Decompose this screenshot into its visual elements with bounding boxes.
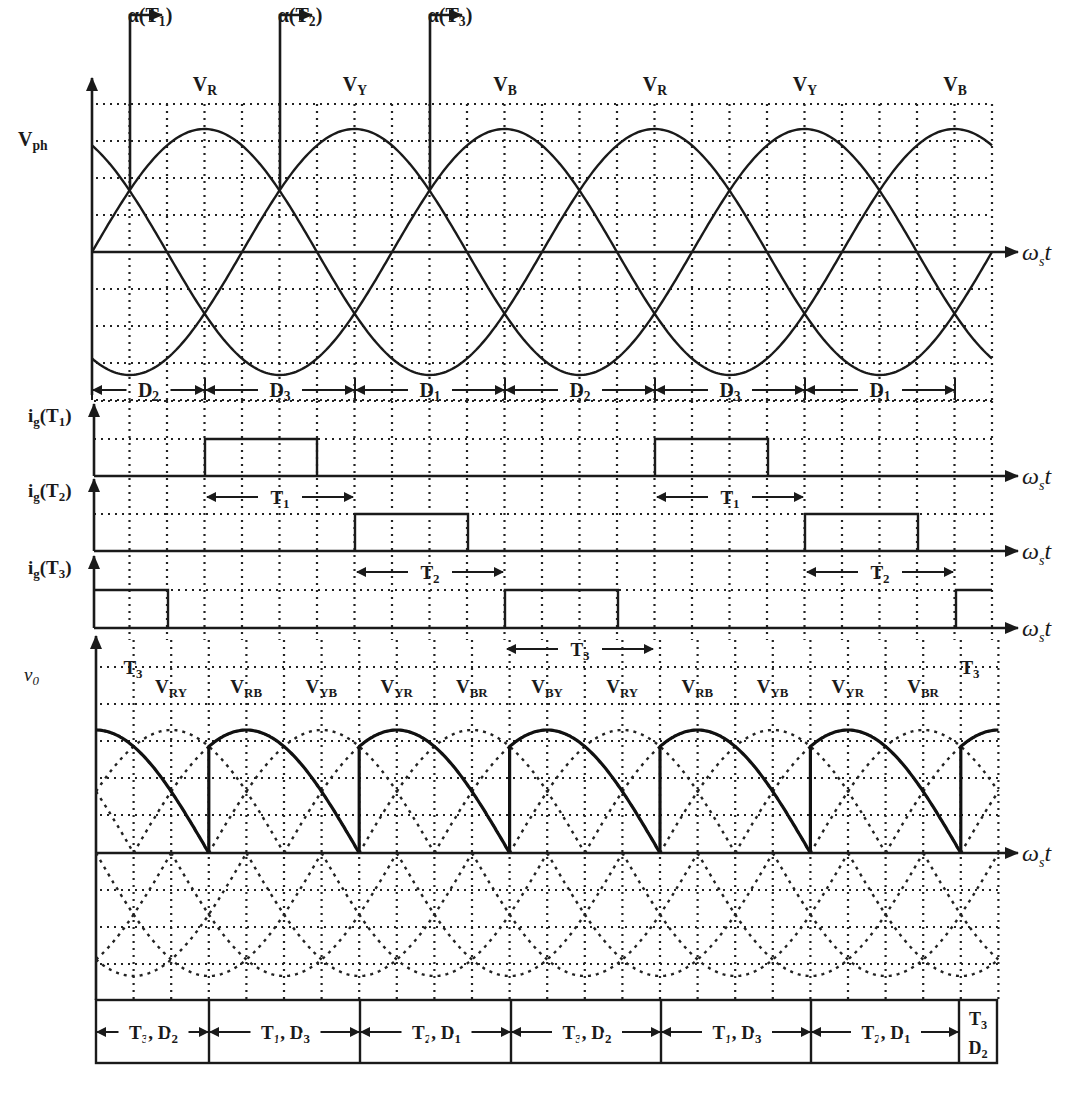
phase-label: VB [943, 73, 967, 98]
gate-pulse [94, 590, 168, 628]
line-voltage-label: VYB [757, 676, 789, 700]
line-voltage-curve [961, 792, 999, 854]
line-voltage-label: VYR [832, 676, 865, 700]
line-voltage-label: VBY [531, 676, 563, 700]
line-voltage-label: VYR [380, 676, 413, 700]
thyristor-conduction-label: T3 [123, 657, 143, 681]
gate-signal-label: ig(T3) [28, 557, 72, 581]
thyristor-conduction-label: T3 [570, 639, 590, 663]
firing-arrow [430, 15, 462, 189]
diode-interval-label: D2 [569, 379, 590, 404]
output-voltage-plot: ωstv0VRYVRBVYBVYRVBRVBYVRYVRBVYBVYRVBR [24, 636, 1052, 1000]
line-voltage-label: VRY [155, 676, 188, 700]
conduction-cell-label: T2, D1 [862, 1022, 911, 1046]
line-voltage-curve [96, 792, 134, 854]
thyristor-conduction-label: T3 [960, 657, 980, 681]
v0-label: v0 [24, 664, 39, 688]
thyristor-conduction-label: T2 [870, 562, 889, 586]
phase-label: VR [643, 73, 667, 98]
conduction-cell-label: T3, D2 [563, 1022, 612, 1046]
line-voltage-curve [96, 730, 209, 853]
output-voltage-segment [810, 730, 960, 853]
conduction-last-cell-top: T3 [969, 1009, 987, 1032]
phase-label: VY [343, 73, 367, 98]
waveform-canvas: ωstVphVRVYVBVRVYVBα(T1)α(T2)α(T3)D2D3D1D… [0, 0, 1084, 1095]
conduction-cell-label: T1, D3 [261, 1022, 310, 1046]
conduction-table: T3, D2T1, D3T2, D1T3, D2T1, D3T2, D1T3D2 [96, 1000, 997, 1063]
output-voltage-segment [359, 730, 509, 853]
line-voltage-label: VBR [456, 676, 488, 700]
diode-interval-label: D2 [138, 379, 159, 404]
phase-label: VR [193, 73, 217, 98]
line-voltage-curve [810, 730, 998, 853]
output-voltage-segment [96, 730, 209, 853]
line-voltage-label: VBR [907, 676, 939, 700]
phase-voltage-plot: ωstVphVRVYVBVRVYVBα(T1)α(T2)α(T3)D2D3D1D… [18, 4, 1052, 404]
phase-label: VY [793, 73, 817, 98]
diode-interval-label: D1 [419, 379, 440, 404]
gate-signal-label: ig(T1) [28, 405, 72, 429]
line-voltage-label: VRB [230, 676, 262, 700]
gate-pulse [655, 439, 768, 476]
gate-pulse [805, 514, 918, 551]
phase-label: VB [493, 73, 517, 98]
conduction-cell-label: T2, D1 [412, 1022, 461, 1046]
diode-interval-label: D3 [719, 379, 740, 404]
thyristor-conduction-label: T1 [720, 487, 739, 511]
diode-interval-label: D3 [269, 379, 290, 404]
gate-pulse [956, 590, 992, 628]
conduction-cell-label: T1, D3 [713, 1022, 762, 1046]
gate-pulse [205, 439, 317, 476]
output-voltage-segment [510, 730, 660, 853]
line-voltage-label: VRB [682, 676, 714, 700]
time-axis-label: ωst [1022, 463, 1052, 493]
firing-arrow [130, 15, 162, 189]
gate-signal-label: ig(T2) [28, 480, 72, 504]
output-voltage-segment [961, 730, 999, 747]
conduction-last-cell-bottom: D2 [968, 1038, 987, 1061]
gate-pulse [505, 590, 618, 628]
conduction-cell-label: T3, D2 [129, 1022, 178, 1046]
time-axis-label: ωst [1022, 615, 1052, 645]
firing-angle-label: α(T3) [428, 4, 473, 29]
gate-pulse [355, 514, 468, 551]
line-voltage-curve [886, 730, 999, 853]
firing-angle-label: α(T2) [278, 4, 323, 29]
line-voltage-label: VYB [306, 676, 338, 700]
output-voltage-segment [660, 730, 810, 853]
time-axis-label: ωst [1022, 538, 1052, 568]
thyristor-conduction-label: T2 [420, 562, 439, 586]
diode-interval-label: D1 [869, 379, 890, 404]
firing-arrow [280, 15, 312, 189]
output-voltage-segment [209, 730, 359, 853]
line-voltage-curve [96, 730, 284, 853]
gate-current-plot: ωstig(T1)T1T1ωstig(T2)T2T2ωstig(T3)T3T3T… [28, 404, 1052, 681]
firing-angle-label: α(T1) [128, 4, 173, 29]
vph-label: Vph [18, 128, 48, 153]
thyristor-conduction-label: T1 [270, 487, 289, 511]
line-voltage-label: VRY [606, 676, 639, 700]
time-axis-label: ωst [1022, 239, 1052, 269]
time-axis-label: ωst [1022, 840, 1052, 870]
